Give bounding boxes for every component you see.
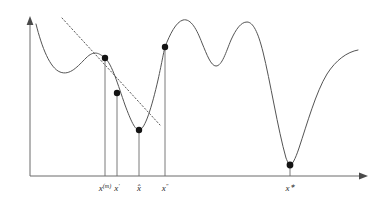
axes-group <box>27 16 368 179</box>
y-axis-arrow-icon <box>27 16 34 25</box>
drop-lines-group <box>105 47 290 176</box>
tangent-dotted-line <box>62 18 160 125</box>
x-axis-arrow-icon <box>359 173 368 180</box>
point-xstar <box>287 162 294 169</box>
point-xp <box>114 90 120 96</box>
x-tick-label-xpp: x″ <box>161 183 169 193</box>
optimization-figure: x(m)x′x̂x″x∗ <box>0 0 378 201</box>
point-xpp <box>162 44 168 50</box>
marker-points-group <box>102 44 294 169</box>
x-tick-superscript-xpp: ″ <box>166 183 169 189</box>
x-tick-label-xhat: x̂ <box>136 183 141 193</box>
x-tick-label-xm: x(m) <box>98 183 111 193</box>
point-xhat <box>136 127 142 133</box>
x-tick-superscript-xm: (m) <box>103 183 111 190</box>
objective-function-curve <box>36 20 358 165</box>
x-tick-labels-group: x(m)x′x̂x″x∗ <box>98 183 295 193</box>
x-tick-label-xstar: x∗ <box>285 183 295 193</box>
point-xm <box>102 55 108 61</box>
x-tick-label-xp: x′ <box>113 183 120 193</box>
figure-canvas: x(m)x′x̂x″x∗ <box>0 0 378 201</box>
x-tick-superscript-xp: ′ <box>118 183 120 189</box>
x-tick-superscript-xstar: ∗ <box>290 183 295 189</box>
